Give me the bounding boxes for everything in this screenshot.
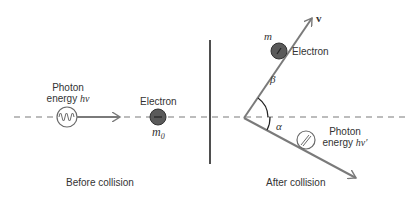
scattered-photon-label: Photon energy hν′ [320, 126, 370, 148]
mass-symbol: m [152, 125, 161, 139]
scattered-electron-icon [271, 43, 287, 59]
electron-velocity-arrow [244, 18, 312, 118]
incoming-photon-label: Photon energy hν [42, 82, 94, 104]
compton-scattering-diagram: Photon energy hν Electron m0 Before coll… [0, 0, 408, 200]
mass-subscript: 0 [161, 132, 165, 141]
photon-label-line2: energy hν [42, 93, 94, 104]
angle-beta-label: β [270, 74, 275, 85]
scattered-photon-icon [297, 131, 315, 149]
after-collision-caption: After collision [266, 177, 325, 188]
photon-label-line1: Photon [42, 82, 94, 93]
incoming-photon-icon [57, 107, 77, 127]
photon-energy-prefix: energy [323, 137, 356, 148]
velocity-label: v [316, 13, 322, 24]
photon-label-line1: Photon [320, 126, 370, 137]
electron-mass-label: m [264, 31, 272, 42]
before-collision-caption: Before collision [66, 177, 134, 188]
electron-before-label: Electron [140, 96, 177, 107]
angle-beta-arc [258, 98, 268, 117]
electron-after-label: Electron [292, 46, 329, 57]
photon-label-line2: energy hν′ [320, 137, 370, 148]
angle-alpha-arc [267, 117, 270, 130]
photon-energy-prefix: energy [47, 93, 80, 104]
angle-alpha-label: α [276, 121, 282, 132]
photon-energy-symbol: hν [80, 93, 89, 104]
electron-rest-mass: m0 [152, 127, 165, 142]
photon-energy-symbol: hν′ [356, 137, 368, 148]
electron-at-rest-icon [150, 109, 166, 125]
